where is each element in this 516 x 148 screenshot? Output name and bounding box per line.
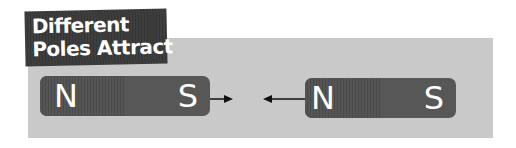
title-line-2: Poles Attract — [32, 36, 167, 62]
diagram-title: Different Poles Attract — [24, 9, 167, 67]
arrow-right-icon — [210, 95, 233, 103]
arrow-left-icon — [263, 95, 305, 103]
